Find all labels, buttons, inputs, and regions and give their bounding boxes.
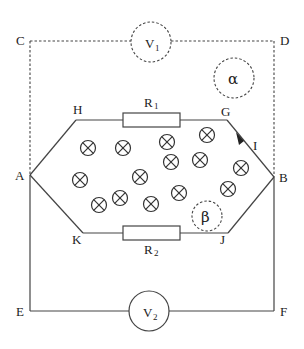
region-beta: β [192,201,222,231]
field-into-page-icon [116,141,131,156]
field-into-page-icon [113,191,128,206]
r2-sub: 2 [154,248,159,258]
field-into-page-icon [144,197,159,212]
node-k-label: K [72,232,82,247]
v2-sub: 2 [153,312,158,322]
r1-sub: 1 [154,101,159,111]
voltmeter-v1: V 1 [131,22,171,62]
field-into-page-icon [164,155,179,170]
r2-letter: R [144,242,153,257]
node-f-label: F [280,304,287,319]
field-into-page-icon [234,161,249,176]
node-d-label: D [280,33,289,48]
resistor-r1: R 1 [123,95,180,127]
field-into-page-icon [73,173,88,188]
node-g-label: G [221,104,230,119]
v2-letter: V [143,305,153,320]
field-into-page-icon [172,186,187,201]
field-into-page-icon [81,141,96,156]
v1-sub: 1 [155,43,160,53]
field-into-page-icon [193,153,208,168]
region-alpha: α [214,58,254,98]
node-j-label: J [220,232,225,247]
voltmeter-v2: V 2 [129,291,169,331]
node-e-label: E [16,304,24,319]
node-c-label: C [16,33,25,48]
v1-letter: V [145,36,155,51]
field-into-page-icon [133,170,148,185]
current-label: I [253,138,257,153]
node-a-label: A [15,168,25,183]
field-into-page-icon [92,198,107,213]
field-into-page-icon [160,135,175,150]
field-into-page-icon [221,182,236,197]
beta-label: β [201,208,210,226]
node-h-label: H [73,102,82,117]
field-into-page-icon [200,128,215,143]
r1-letter: R [144,95,153,110]
circuit-diagram: V 1 α R 1 R 2 I β [0,0,304,349]
alpha-label: α [228,70,238,88]
node-b-label: B [279,170,288,185]
resistor-r2: R 2 [123,226,180,258]
magnetic-field-into-page [73,128,249,213]
